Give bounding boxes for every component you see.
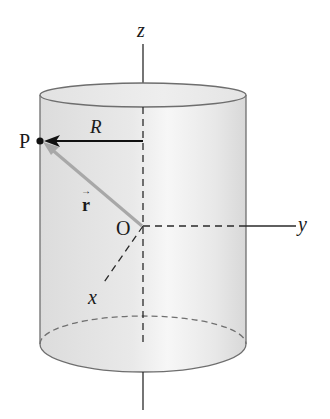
r-vector-arrow-accent: → xyxy=(81,186,91,196)
top-ellipse xyxy=(40,83,246,107)
point-p-marker xyxy=(36,137,43,144)
x-axis-label: x xyxy=(88,287,97,307)
r-vector-label: r xyxy=(82,196,90,214)
diagram-canvas xyxy=(0,0,330,419)
point-p-label: P xyxy=(19,131,30,151)
cylinder-diagram: z y x O P R r → xyxy=(0,0,330,419)
radius-label: R xyxy=(90,117,102,136)
z-axis-label: z xyxy=(137,20,145,40)
origin-label: O xyxy=(116,218,130,238)
y-axis-label: y xyxy=(298,214,307,234)
